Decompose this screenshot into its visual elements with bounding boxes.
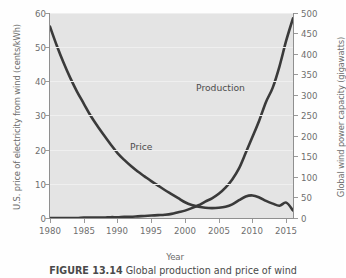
x-axis-tick	[219, 219, 220, 223]
y-axis-right-tick-label: 350	[301, 70, 327, 80]
x-axis-tick	[252, 219, 253, 223]
y-axis-left-tick-label: 40	[20, 77, 46, 87]
axis-spine-right	[293, 13, 294, 219]
gridline	[50, 13, 293, 14]
y-axis-right-tick	[294, 136, 298, 137]
y-axis-right-tick-label: 450	[301, 29, 327, 39]
y-axis-right-tick	[294, 33, 298, 34]
y-axis-right-tick-label: 150	[301, 152, 327, 162]
gridline	[50, 184, 293, 185]
y-axis-right-tick-label: 250	[301, 111, 327, 121]
y-axis-left-tick-label: 30	[20, 111, 46, 121]
y-axis-right-title: Global wind power capacity (gigawatts)	[336, 14, 346, 220]
y-axis-right-tick	[294, 54, 298, 55]
y-axis-right-tick	[294, 197, 298, 198]
x-axis-tick	[117, 219, 118, 223]
y-axis-left-tick	[45, 47, 49, 48]
y-axis-right-tick-label: 0	[301, 214, 327, 224]
y-axis-right-tick	[294, 177, 298, 178]
y-axis-left-tick-label: 0	[20, 214, 46, 224]
y-axis-left-tick	[45, 81, 49, 82]
y-axis-right-tick	[294, 218, 298, 219]
series-line-production	[50, 18, 293, 218]
x-axis-title: Year	[130, 252, 220, 262]
y-axis-right-tick-label: 300	[301, 91, 327, 101]
x-axis-tick-label: 2015	[266, 226, 306, 236]
figure-caption: FIGURE 13.14 Global production and price…	[18, 265, 328, 277]
y-axis-right-tick	[294, 115, 298, 116]
y-axis-right-tick	[294, 13, 298, 14]
y-axis-left-tick-label: 50	[20, 43, 46, 53]
axis-spine-left	[49, 13, 50, 219]
gridline	[50, 81, 293, 82]
gridline	[50, 150, 293, 151]
y-axis-left-tick-label: 60	[20, 9, 46, 19]
y-axis-right-tick	[294, 95, 298, 96]
x-axis-tick	[185, 219, 186, 223]
y-axis-left-tick	[45, 150, 49, 151]
plot-area	[50, 13, 293, 218]
y-axis-right-tick-label: 200	[301, 132, 327, 142]
series-label-price: Price	[130, 141, 152, 152]
y-axis-left-tick	[45, 13, 49, 14]
y-axis-right-tick-label: 500	[301, 9, 327, 19]
y-axis-left-tick	[45, 184, 49, 185]
y-axis-left-tick	[45, 218, 49, 219]
x-axis-tick	[84, 219, 85, 223]
figure-caption-text: Global production and price of wind	[126, 265, 297, 276]
series-label-production: Production	[196, 82, 245, 93]
y-axis-right-tick-label: 50	[301, 193, 327, 203]
y-axis-right-tick-label: 100	[301, 173, 327, 183]
gridline	[50, 47, 293, 48]
y-axis-right-tick	[294, 156, 298, 157]
axis-spine-bottom	[49, 218, 294, 219]
x-axis-tick	[151, 219, 152, 223]
y-axis-left-tick-label: 10	[20, 180, 46, 190]
y-axis-left-tick-label: 20	[20, 146, 46, 156]
y-axis-right-tick-label: 400	[301, 50, 327, 60]
y-axis-right-tick	[294, 74, 298, 75]
series-line-price	[50, 27, 293, 211]
y-axis-left-tick	[45, 115, 49, 116]
gridline	[50, 115, 293, 116]
x-axis-tick	[286, 219, 287, 223]
figure-caption-label: FIGURE 13.14	[49, 265, 122, 276]
x-axis-tick	[50, 219, 51, 223]
